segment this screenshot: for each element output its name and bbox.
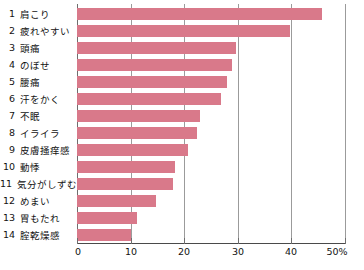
category-rank: 10 (0, 161, 15, 172)
category-rank: 14 (0, 229, 15, 240)
category-name: 頭痛 (20, 41, 40, 55)
bar-1 (77, 8, 322, 20)
category-rank: 12 (0, 195, 15, 206)
bar-14 (77, 229, 131, 241)
category-label-6: 6汗をかく (0, 90, 72, 107)
gridline-30 (238, 4, 239, 243)
category-name: めまい (20, 194, 50, 208)
category-name: 胃もたれ (20, 211, 60, 225)
tick-label-30: 30 (232, 246, 244, 257)
bar-5 (77, 76, 227, 88)
bar-11 (77, 178, 173, 190)
category-label-9: 9皮膚掻痒感 (0, 141, 72, 158)
category-rank: 5 (0, 76, 15, 87)
bar-10 (77, 161, 175, 173)
category-label-1: 1肩こり (0, 5, 72, 22)
category-name: 腰痛 (20, 75, 40, 89)
plot-right-border (345, 4, 346, 243)
category-name: のぼせ (20, 58, 50, 72)
category-name: 疲れやすい (20, 24, 70, 38)
category-label-8: 8イライラ (0, 124, 72, 141)
category-label-column: 1肩こり2疲れやすい3頭痛4のぼせ5腰痛6汗をかく7不眠8イライラ9皮膚掻痒感1… (0, 0, 77, 243)
tick-label-20: 20 (178, 246, 190, 257)
tick-mark-0 (77, 238, 78, 244)
bar-6 (77, 93, 221, 105)
tick-mark-10 (131, 238, 132, 244)
tick-label-50: 50% (326, 246, 347, 257)
bar-13 (77, 212, 137, 224)
category-name: 肩こり (20, 7, 50, 21)
category-label-4: 4のぼせ (0, 56, 72, 73)
category-label-12: 12めまい (0, 192, 72, 209)
category-name: 皮膚掻痒感 (20, 143, 70, 157)
tick-mark-20 (184, 238, 185, 244)
bar-8 (77, 127, 197, 139)
category-label-5: 5腰痛 (0, 73, 72, 90)
category-rank: 13 (0, 212, 15, 223)
category-rank: 4 (0, 59, 15, 70)
bar-7 (77, 110, 200, 122)
category-name: 腟乾燥感 (20, 228, 60, 242)
gridline-0 (77, 4, 78, 243)
tick-mark-30 (238, 238, 239, 244)
tick-label-40: 40 (285, 246, 297, 257)
gridline-10 (131, 4, 132, 243)
bar-12 (77, 195, 156, 207)
bar-2 (77, 25, 290, 37)
category-rank: 1 (0, 8, 15, 19)
gridline-40 (291, 4, 292, 243)
tick-mark-50 (345, 238, 346, 244)
category-label-13: 13胃もたれ (0, 209, 72, 226)
category-label-10: 10動悸 (0, 158, 72, 175)
category-name: 汗をかく (20, 92, 60, 106)
category-label-14: 14腟乾燥感 (0, 226, 72, 243)
category-label-11: 11気分がしずむ (0, 175, 72, 192)
category-label-2: 2疲れやすい (0, 22, 72, 39)
bar-chart: 1肩こり2疲れやすい3頭痛4のぼせ5腰痛6汗をかく7不眠8イライラ9皮膚掻痒感1… (0, 0, 364, 270)
category-name: 気分がしずむ (17, 177, 77, 191)
category-name: 動悸 (20, 160, 40, 174)
category-rank: 11 (0, 178, 12, 189)
category-rank: 9 (0, 144, 15, 155)
bar-3 (77, 42, 236, 54)
tick-label-10: 10 (125, 246, 137, 257)
gridline-20 (184, 4, 185, 243)
category-label-3: 3頭痛 (0, 39, 72, 56)
plot-area (77, 4, 345, 243)
category-rank: 6 (0, 93, 15, 104)
category-rank: 8 (0, 127, 15, 138)
tick-mark-40 (291, 238, 292, 244)
bar-4 (77, 59, 232, 71)
category-name: 不眠 (20, 109, 40, 123)
x-axis-line (77, 243, 346, 244)
category-rank: 2 (0, 25, 15, 36)
category-name: イライラ (20, 126, 60, 140)
category-rank: 7 (0, 110, 15, 121)
category-rank: 3 (0, 42, 15, 53)
bar-9 (77, 144, 188, 156)
category-label-7: 7不眠 (0, 107, 72, 124)
tick-label-0: 0 (75, 246, 81, 257)
